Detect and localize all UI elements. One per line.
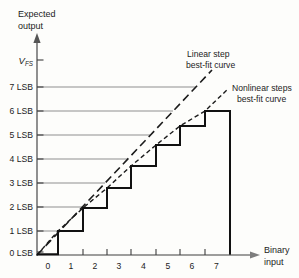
x-tick-labels: 0 1 2 3 4 5 6 7 (46, 261, 220, 271)
nonlinear-fit-label: Nonlinear steps best-fit curve (232, 83, 292, 104)
nonlinear-fit-label-line1: Nonlinear steps (232, 83, 292, 93)
linear-fit-label: Linear step best-fit curve (186, 49, 235, 70)
linear-fit-label-line1: Linear step (187, 49, 230, 59)
dac-transfer-chart: VFS 7 LSB 6 LSB 5 LSB 4 LSB 3 LSB 2 LSB … (0, 0, 299, 278)
y-tick-label: 6 LSB (10, 106, 34, 116)
x-axis-title: Binary input (264, 245, 290, 267)
y-axis-title-line2: output (18, 21, 44, 31)
y-tick-label: 0 LSB (10, 248, 34, 258)
x-tick-label: 0 (46, 261, 51, 271)
x-tick-label: 2 (93, 261, 98, 271)
x-tick-label: 6 (190, 261, 195, 271)
x-tick-label: 5 (166, 261, 171, 271)
x-tick-label: 1 (69, 261, 74, 271)
y-tick-label: 3 LSB (10, 178, 34, 188)
y-tick-labels: VFS 7 LSB 6 LSB 5 LSB 4 LSB 3 LSB 2 LSB … (10, 55, 34, 258)
nonlinear-fit-label-line2: best-fit curve (237, 94, 286, 104)
y-axis-title-line1: Expected (18, 9, 56, 19)
x-tick-label: 4 (141, 261, 146, 271)
lsb-gridlines (37, 87, 196, 231)
y-tick-label: 4 LSB (10, 154, 34, 164)
x-axis-ticks (83, 249, 230, 255)
y-tick-label: 7 LSB (10, 82, 34, 92)
right-arrow-icon (250, 251, 260, 258)
x-axis-title-line1: Binary (264, 245, 290, 255)
y-full-scale-label: VFS (19, 55, 34, 67)
y-tick-label: 5 LSB (10, 130, 34, 140)
y-tick-label: 1 LSB (10, 226, 34, 236)
x-tick-label: 3 (117, 261, 122, 271)
linear-best-fit-line (37, 70, 212, 255)
y-tick-label: 2 LSB (10, 202, 34, 212)
x-tick-label: 7 (214, 261, 219, 271)
x-axis-title-line2: input (264, 257, 284, 267)
linear-fit-label-line2: best-fit curve (186, 60, 235, 70)
y-axis-ticks (37, 60, 44, 252)
dac-transfer-figure: VFS 7 LSB 6 LSB 5 LSB 4 LSB 3 LSB 2 LSB … (0, 0, 299, 278)
y-axis-title: Expected output (18, 9, 56, 31)
up-arrow-icon (33, 33, 40, 43)
